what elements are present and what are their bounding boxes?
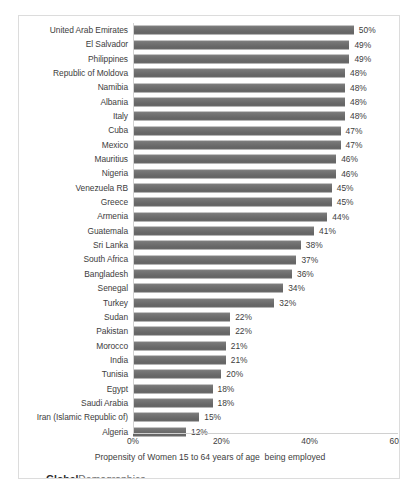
x-tick-label: 0% [127,437,139,445]
bar [133,241,301,250]
bar-value-label: 18% [218,399,235,407]
bar-value-label: 37% [301,255,318,263]
category-label: Venezuela RB [19,184,133,192]
chart-row: Namibia48% [19,80,400,94]
chart-row: Cuba47% [19,123,400,137]
bar [133,399,213,408]
bar-track: 48% [133,80,400,94]
plot-area: United Arab Emirates50%El Salvador49%Phi… [19,23,400,433]
chart-row: Saudi Arabia18% [19,396,400,410]
category-label: Iran (Islamic Republic of) [19,413,133,421]
x-axis-tick-labels: 0%20%40%60% [133,437,398,451]
chart-container: United Arab Emirates50%El Salvador49%Phi… [18,15,400,479]
bar [133,97,345,106]
chart-row: Republic of Moldova48% [19,66,400,80]
bar-value-label: 22% [235,327,252,335]
bar [133,370,221,379]
chart-row: Turkey32% [19,296,400,310]
chart-row: Philippines49% [19,52,400,66]
x-tick-label: 40% [301,437,318,445]
chart-row: Bangladesh36% [19,267,400,281]
bar [133,183,332,192]
category-label: Tunisia [19,370,133,378]
chart-row: Iran (Islamic Republic of)15% [19,410,400,424]
chart-row: El Salvador49% [19,37,400,51]
bar-value-label: 48% [350,83,367,91]
chart-row: Guatemala41% [19,224,400,238]
bar-value-label: 44% [332,212,349,220]
bar [133,140,341,149]
chart-row: Tunisia20% [19,367,400,381]
bar-value-label: 21% [231,356,248,364]
bar-track: 48% [133,95,400,109]
category-label: Greece [19,198,133,206]
category-label: Sri Lanka [19,241,133,249]
bar-value-label: 48% [350,98,367,106]
bar [133,270,292,279]
bar-track: 49% [133,37,400,51]
bar [133,298,274,307]
bar [133,212,327,221]
chart-row: Morocco21% [19,339,400,353]
category-label: Mexico [19,141,133,149]
category-label: Cuba [19,126,133,134]
bar-track: 21% [133,353,400,367]
chart-row: Albania48% [19,95,400,109]
category-label: India [19,356,133,364]
bar-value-label: 18% [218,385,235,393]
bar [133,83,345,92]
bar [133,327,230,336]
chart-row: United Arab Emirates50% [19,23,400,37]
bar-track: 38% [133,238,400,252]
bar [133,341,226,350]
bar [133,255,296,264]
bar-track: 34% [133,281,400,295]
x-tick-label: 20% [213,437,230,445]
bar [133,198,332,207]
bar-track: 48% [133,66,400,80]
bar-value-label: 41% [319,227,336,235]
brand-logo-light: Demographics [78,474,145,479]
bar-value-label: 15% [204,413,221,421]
bar-value-label: 48% [350,69,367,77]
bar-track: 18% [133,396,400,410]
category-label: El Salvador [19,40,133,48]
bar-track: 50% [133,23,400,37]
category-label: Mauritius [19,155,133,163]
bar-track: 37% [133,253,400,267]
bar-value-label: 21% [231,342,248,350]
bar [133,112,345,121]
bar-track: 36% [133,267,400,281]
chart-row: Mauritius46% [19,152,400,166]
bar [133,226,314,235]
bar-value-label: 34% [288,284,305,292]
bar-track: 15% [133,410,400,424]
category-label: Guatemala [19,227,133,235]
chart-row: Sri Lanka38% [19,238,400,252]
category-label: Bangladesh [19,270,133,278]
bar-value-label: 45% [337,198,354,206]
brand-logo-strong: Global [46,474,78,479]
bar-track: 45% [133,181,400,195]
chart-row: Pakistan22% [19,324,400,338]
bar [133,356,226,365]
bar [133,384,213,393]
bar [133,126,341,135]
category-label: Morocco [19,342,133,350]
brand-logo: GlobalDemographics [46,475,145,479]
bar-value-label: 47% [346,141,363,149]
bar-track: 20% [133,367,400,381]
category-label: Italy [19,112,133,120]
bar [133,155,336,164]
bar-track: 46% [133,152,400,166]
chart-row: Nigeria46% [19,166,400,180]
bar-track: 44% [133,209,400,223]
bar-value-label: 45% [337,184,354,192]
bar-value-label: 50% [359,26,376,34]
bar-value-label: 12% [191,428,208,436]
chart-row: Mexico47% [19,138,400,152]
bar-track: 47% [133,123,400,137]
bar-track: 22% [133,324,400,338]
category-label: Senegal [19,284,133,292]
bar-track: 48% [133,109,400,123]
